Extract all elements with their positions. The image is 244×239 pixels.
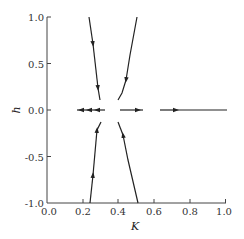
x-axis-label: K	[130, 220, 140, 233]
x-tick-0.8: 0.8	[182, 206, 198, 217]
flow-chart: 1.0 0.5 0.0 -0.5 -1.0 0.0 0.2 0.4 0.6 0.…	[0, 0, 244, 239]
x-tick-0: 0.0	[41, 206, 57, 217]
flow-upper-left	[89, 17, 93, 44]
flow-upper-right	[126, 17, 137, 80]
x-tick-0.4: 0.4	[110, 206, 126, 217]
flow-lower-right	[123, 135, 138, 203]
y-tick-0: 0.0	[28, 105, 44, 116]
flow-lines	[77, 17, 227, 203]
y-tick-neg0.5: -0.5	[25, 152, 44, 163]
y-tick-1: 1.0	[28, 12, 44, 23]
flow-lower-left	[90, 175, 93, 203]
x-tick-0.2: 0.2	[75, 206, 91, 217]
x-tick-1: 1.0	[216, 206, 232, 217]
y-tick-0.5: 0.5	[28, 59, 44, 70]
y-axis-label: h	[10, 106, 23, 113]
x-tick-0.6: 0.6	[146, 206, 162, 217]
